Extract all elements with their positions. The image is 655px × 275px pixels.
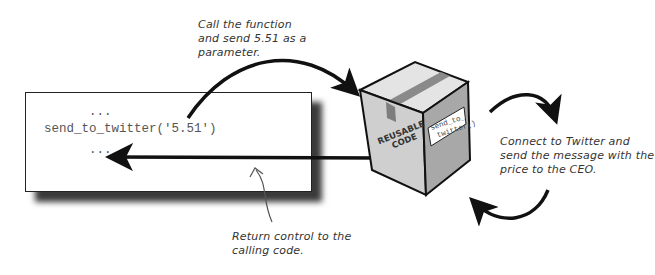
call-note: Call the function and send 5.51 as a par… (198, 18, 306, 60)
call-note-line2: and send 5.51 as a (198, 32, 306, 46)
pointer-arrow-head (250, 168, 263, 177)
process-loop-arrow-top (490, 95, 555, 118)
return-arrow (112, 157, 378, 158)
connect-note: Connect to Twitter and send the message … (500, 135, 654, 177)
return-note-line1: Return control to the (232, 230, 351, 244)
pointer-arrow (256, 170, 272, 222)
process-loop-arrow-bottom (474, 190, 548, 218)
connect-note-line2: send the message with the (500, 149, 654, 163)
return-note-line2: calling code. (232, 244, 351, 258)
call-note-line3: parameter. (198, 46, 306, 60)
connect-note-line3: price to the CEO. (500, 163, 654, 177)
call-arrow (188, 61, 355, 118)
return-note: Return control to the calling code. (232, 230, 351, 258)
call-note-line1: Call the function (198, 18, 306, 32)
connect-note-line1: Connect to Twitter and (500, 135, 654, 149)
